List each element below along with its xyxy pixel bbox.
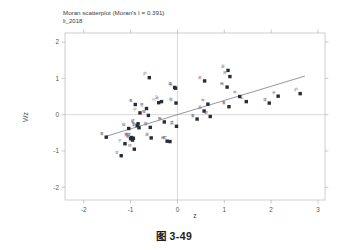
x-tick-label: 1: [222, 206, 226, 213]
point-marker: [268, 101, 271, 104]
point-marker: [148, 76, 151, 79]
x-tick-label: 2: [269, 206, 273, 213]
point-marker: [163, 120, 166, 123]
point-marker: [136, 122, 139, 125]
data-point: 青: [100, 131, 108, 139]
x-tick-label: 3: [316, 206, 320, 213]
point-label: 苏: [223, 70, 227, 75]
data-points: 青甘宁桂贵云新藏琼黑吉辽蒙宁晋豫沪陕湘川渝赣闽皖津京鄂冀鲁浙苏粤湖闽浙苏鲁粤上津…: [100, 64, 302, 157]
point-marker: [134, 103, 137, 106]
point-label: 沪: [294, 87, 298, 92]
data-point: 湘: [145, 132, 153, 140]
point-label: 晋: [140, 103, 144, 107]
point-marker: [203, 79, 206, 82]
point-label: 冀: [170, 120, 174, 125]
point-label: 青: [100, 131, 104, 136]
point-marker: [175, 125, 178, 128]
data-point: 京: [272, 90, 280, 98]
point-label: 藏: [127, 132, 131, 137]
point-marker: [123, 142, 126, 145]
point-label: 沪: [143, 71, 147, 76]
y-tick-label: 1: [55, 75, 59, 82]
point-label: 甘: [115, 150, 119, 155]
point-marker: [160, 100, 163, 103]
point-marker: [209, 115, 212, 118]
point-label: 苏: [198, 75, 202, 80]
point-label: 闽: [220, 81, 224, 86]
point-label: 豫: [142, 109, 146, 114]
y-tick-label: 0: [55, 111, 59, 118]
point-marker: [276, 94, 279, 97]
point-label: 琼: [128, 143, 132, 148]
data-point: 冀: [170, 120, 178, 128]
data-point: 鄂: [169, 97, 177, 105]
data-point: 黑: [129, 99, 137, 106]
point-marker: [195, 117, 198, 120]
point-label: 京: [169, 82, 173, 87]
y-axis-label: Wz: [22, 111, 29, 121]
data-point: 鲁: [191, 113, 199, 121]
axis-ticks: -2-10123-2-1012: [53, 30, 328, 214]
scatterplot-canvas: Moran scatterplot (Moran's I = 0.391) li…: [0, 0, 348, 250]
point-label: 浙: [198, 105, 202, 110]
y-tick-label: 2: [55, 38, 59, 45]
data-point: 津: [263, 97, 271, 105]
point-marker: [133, 147, 136, 150]
data-point: 鲁: [222, 100, 230, 108]
point-label: 赣: [158, 116, 162, 121]
chart-subtitle: li_2018: [63, 18, 83, 24]
point-label: 蒙: [132, 122, 136, 127]
axis-titles: z Wz: [22, 111, 197, 219]
point-marker: [168, 140, 171, 143]
y-tick-label: -1: [53, 147, 59, 154]
point-marker: [137, 126, 140, 129]
data-point: 苏: [198, 75, 206, 83]
data-point: 琼: [128, 143, 136, 151]
data-point: 上: [240, 95, 248, 103]
point-marker: [298, 92, 301, 95]
point-label: 湖: [204, 110, 208, 115]
data-point: 粤: [201, 98, 209, 106]
figure-caption: 图 3-49: [156, 230, 192, 242]
point-label: 浙: [221, 64, 225, 69]
point-marker: [206, 102, 209, 105]
y-tick-label: -2: [53, 184, 59, 191]
reference-lines: [65, 33, 325, 200]
point-marker: [149, 126, 152, 129]
point-label: 渝: [155, 95, 159, 100]
moran-scatterplot-figure: Moran scatterplot (Moran's I = 0.391) li…: [0, 0, 348, 250]
point-label: 黑: [129, 99, 133, 103]
data-point: 桂: [122, 122, 130, 130]
point-marker: [105, 135, 108, 138]
point-marker: [227, 105, 230, 108]
point-marker: [225, 85, 228, 88]
chart-titles: Moran scatterplot (Moran's I = 0.391) li…: [63, 9, 164, 24]
chart-title: Moran scatterplot (Moran's I = 0.391): [63, 9, 164, 16]
point-label: 宁: [133, 107, 137, 112]
point-label: 宁: [118, 138, 122, 143]
point-marker: [149, 136, 152, 139]
point-label: 鲁: [191, 113, 195, 118]
point-marker: [228, 75, 231, 78]
data-point: 湖: [204, 110, 212, 118]
point-label: 津: [263, 97, 267, 102]
point-marker: [174, 101, 177, 104]
point-marker: [132, 137, 135, 140]
point-label: 京: [272, 90, 276, 95]
point-marker: [245, 100, 248, 103]
data-point: 闽: [220, 81, 228, 89]
point-label: 鄂: [169, 97, 173, 102]
point-label: 皖: [163, 135, 167, 140]
x-axis-label: z: [193, 212, 197, 219]
point-marker: [127, 127, 130, 130]
point-label: 粤: [201, 98, 205, 103]
point-marker: [120, 154, 123, 157]
point-label: 桂: [122, 122, 126, 127]
point-label: 鲁: [222, 100, 226, 105]
data-point: 晋: [140, 103, 148, 110]
x-tick-label: -2: [81, 206, 87, 213]
x-tick-label: -1: [128, 206, 134, 213]
x-tick-label: 0: [176, 206, 180, 213]
point-label: 湘: [145, 132, 149, 137]
data-point: 沪: [143, 71, 151, 79]
